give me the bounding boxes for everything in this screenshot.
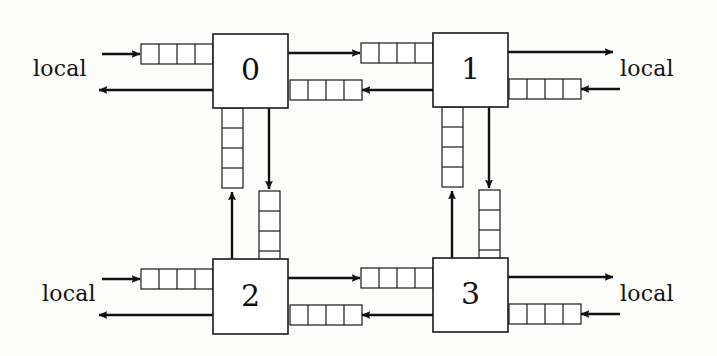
local-port-label: local (620, 56, 674, 81)
queue (141, 269, 213, 289)
queue (290, 305, 362, 325)
diagram-canvas: 0123 locallocallocallocal (0, 0, 717, 356)
queue (442, 107, 463, 187)
router-node-label: 1 (461, 51, 480, 86)
local-port-label: local (42, 281, 96, 306)
network-topology-svg: 0123 (0, 0, 717, 356)
router-node[interactable]: 0 (213, 34, 288, 108)
queues-layer (141, 43, 581, 325)
queue (361, 268, 433, 288)
local-port-label: local (620, 281, 674, 306)
router-node[interactable]: 3 (433, 258, 508, 332)
router-node[interactable]: 1 (433, 33, 508, 107)
queue (222, 108, 243, 188)
queue (290, 80, 362, 100)
queue (361, 43, 433, 63)
queue (509, 79, 581, 99)
router-node-label: 0 (241, 52, 260, 87)
router-node-label: 2 (241, 278, 260, 313)
queue (141, 44, 213, 64)
local-port-label: local (33, 56, 87, 81)
router-node[interactable]: 2 (213, 259, 288, 334)
nodes-layer: 0123 (213, 33, 508, 334)
router-node-label: 3 (461, 276, 480, 311)
queue (509, 304, 581, 324)
